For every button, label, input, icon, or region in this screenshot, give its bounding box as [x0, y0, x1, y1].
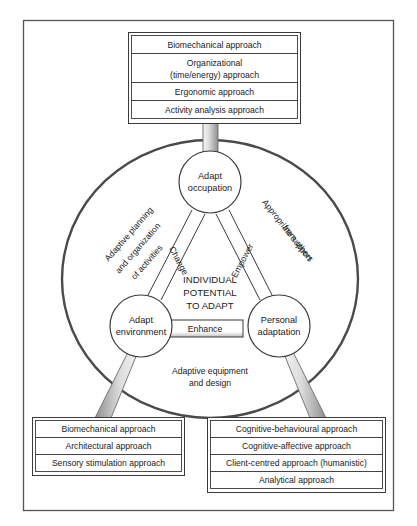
bottom-right-box-label-3: Analytical approach [259, 475, 334, 485]
center-label-line3: TO ADAPT [186, 300, 233, 311]
top-box-label-3: Activity analysis approach [165, 105, 264, 115]
top-box-label-0: Biomechanical approach [167, 40, 261, 50]
bottom-left-box-label-2: Sensory stimulation approach [52, 458, 165, 468]
bottom-left-box-label-1: Architectural approach [66, 441, 152, 451]
diagram-figure: Adapt occupation Adapt environment Perso… [0, 0, 417, 526]
node-label-top-line1: Adapt [198, 171, 222, 181]
node-label-right-line2: adaptation [258, 327, 301, 337]
bottom-right-box-label-1: Cognitive-affective approach [242, 441, 351, 451]
connector-bar-top [203, 122, 218, 154]
node-circle-adapt-occupation [179, 151, 241, 213]
node-label-left-line2: environment [116, 327, 167, 337]
outer-label-bottom: Adaptive equipment and design [172, 366, 249, 388]
outer-label-bottom-line1: Adaptive equipment [172, 366, 249, 376]
outer-label-right: Appropriate support from others [260, 197, 315, 263]
top-box-label-2: Ergonomic approach [175, 87, 255, 97]
bottom-right-box-label-2: Client-centred approach (humanistic) [226, 458, 367, 468]
center-label-line2: POTENTIAL [183, 287, 237, 298]
node-label-top-line2: occupation [188, 183, 232, 193]
node-label-right-line1: Personal [261, 315, 297, 325]
node-circle-personal-adaptation [248, 295, 310, 357]
bottom-right-box-label-0: Cognitive-behavioural approach [236, 424, 358, 434]
node-circle-adapt-environment [110, 295, 172, 357]
bottom-left-box-group: Biomechanical approach Architectural app… [33, 418, 185, 476]
node-label-left-line1: Adapt [129, 315, 153, 325]
diagram-canvas: Adapt occupation Adapt environment Perso… [0, 0, 417, 526]
top-box-label-1b: (time/energy) approach [170, 70, 259, 80]
bottom-right-box-group: Cognitive-behavioural approach Cognitive… [208, 418, 386, 493]
top-box-group: Biomechanical approach Organizational (t… [129, 33, 301, 124]
bottom-left-box-label-0: Biomechanical approach [61, 424, 155, 434]
outer-label-bottom-line2: and design [189, 378, 231, 388]
outer-label-right-line2: from others [281, 223, 316, 263]
outer-label-left: Adaptive planning and organization of ac… [103, 205, 165, 282]
top-box-label-1a: Organizational [187, 58, 243, 68]
edge-label-enhance: Enhance [188, 324, 223, 334]
edge-empower-line-a [229, 210, 274, 299]
